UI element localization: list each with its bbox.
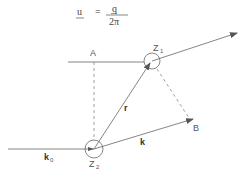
- label-B: B: [193, 123, 199, 133]
- formula-equals: =: [95, 6, 101, 17]
- outgoing-wave-arrow: [152, 33, 237, 61]
- label-Z1: Z 1: [153, 43, 164, 54]
- svg-text:2: 2: [96, 164, 100, 170]
- formula-numerator: q: [112, 3, 117, 14]
- label-k: k: [140, 137, 146, 147]
- scattering-diagram: u = q 2π A B Z 1 Z 2 r k k 0: [0, 0, 245, 172]
- label-r: r: [124, 103, 128, 113]
- svg-text:1: 1: [160, 48, 164, 54]
- svg-text:0: 0: [50, 157, 54, 163]
- label-k0: k 0: [44, 152, 54, 163]
- z2-inner-arrow-icon: [88, 147, 94, 151]
- dashed-line-Z1-B: [157, 69, 191, 121]
- label-Z2: Z 2: [89, 159, 100, 170]
- formula: u = q 2π: [76, 3, 128, 27]
- svg-text:Z: Z: [89, 159, 95, 169]
- formula-lhs: u: [77, 6, 82, 17]
- formula-denominator: 2π: [109, 16, 119, 27]
- label-A: A: [90, 48, 96, 58]
- svg-text:Z: Z: [153, 43, 159, 53]
